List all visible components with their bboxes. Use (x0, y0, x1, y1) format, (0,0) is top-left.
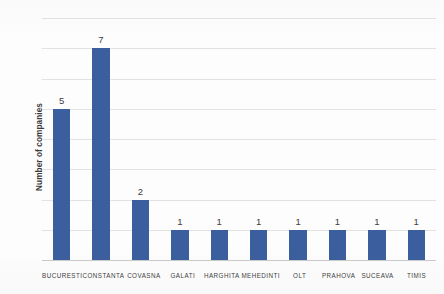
bars-layer: 5721111111 (42, 18, 436, 260)
x-axis-tick-label: MEHEDINTI (241, 271, 280, 279)
bar[interactable]: 1 (250, 230, 267, 260)
x-axis-tick-label: SUCEAVA (361, 271, 393, 279)
x-axis-label-slot: SUCEAVA (358, 264, 397, 282)
x-axis-tick-label: TIMIS (407, 271, 426, 279)
x-axis-label-slot: COVASNA (124, 264, 163, 282)
x-axis-tick-label: OLT (293, 271, 306, 279)
bar[interactable]: 1 (211, 230, 228, 260)
bar-value-label: 1 (295, 216, 300, 227)
bar[interactable]: 1 (329, 230, 346, 260)
bar-value-label: 1 (177, 216, 182, 227)
bar-slot: 1 (278, 18, 317, 260)
x-axis-tick-label: GALATI (171, 271, 196, 279)
bar-value-label: 1 (256, 216, 261, 227)
bar-slot: 1 (397, 18, 436, 260)
bar-slot: 1 (200, 18, 239, 260)
bar[interactable]: 1 (171, 230, 188, 260)
x-axis-tick-label: BUCURESTI (42, 271, 82, 279)
x-axis-label-slot: OLT (280, 264, 319, 282)
x-axis-label-slot: BUCURESTI (42, 264, 82, 282)
bar[interactable]: 7 (92, 48, 109, 260)
bar[interactable]: 1 (368, 230, 385, 260)
bar-slot: 1 (357, 18, 396, 260)
bar-slot: 2 (121, 18, 160, 260)
x-axis-label-slot: HARGHITA (202, 264, 241, 282)
bar-value-label: 1 (335, 216, 340, 227)
x-axis-labels: BUCURESTICONSTANTACOVASNAGALATIHARGHITAM… (42, 264, 436, 282)
x-axis-tick-label: CONSTANTA (82, 271, 124, 279)
bar-chart: Number of companies 876543210 5721111111… (0, 0, 444, 294)
bar-value-label: 1 (414, 216, 419, 227)
bar-slot: 7 (81, 18, 120, 260)
bar-slot: 1 (239, 18, 278, 260)
bar[interactable]: 5 (53, 109, 70, 260)
x-axis-line (42, 260, 436, 261)
x-axis-tick-label: COVASNA (127, 271, 160, 279)
x-axis-label-slot: PRAHOVA (319, 264, 358, 282)
bar-slot: 1 (160, 18, 199, 260)
bar-value-label: 1 (217, 216, 222, 227)
bar-slot: 1 (318, 18, 357, 260)
bar-value-label: 2 (138, 186, 143, 197)
x-axis-tick-label: PRAHOVA (322, 271, 355, 279)
x-axis-label-slot: TIMIS (397, 264, 436, 282)
bar-value-label: 7 (98, 34, 103, 45)
bar[interactable]: 2 (132, 200, 149, 261)
x-axis-label-slot: GALATI (163, 264, 202, 282)
bar-slot: 5 (42, 18, 81, 260)
x-axis-label-slot: CONSTANTA (82, 264, 124, 282)
bar[interactable]: 1 (289, 230, 306, 260)
bar-value-label: 5 (59, 95, 64, 106)
bar[interactable]: 1 (408, 230, 425, 260)
x-axis-label-slot: MEHEDINTI (241, 264, 280, 282)
x-axis-tick-label: HARGHITA (204, 271, 240, 279)
bar-value-label: 1 (374, 216, 379, 227)
